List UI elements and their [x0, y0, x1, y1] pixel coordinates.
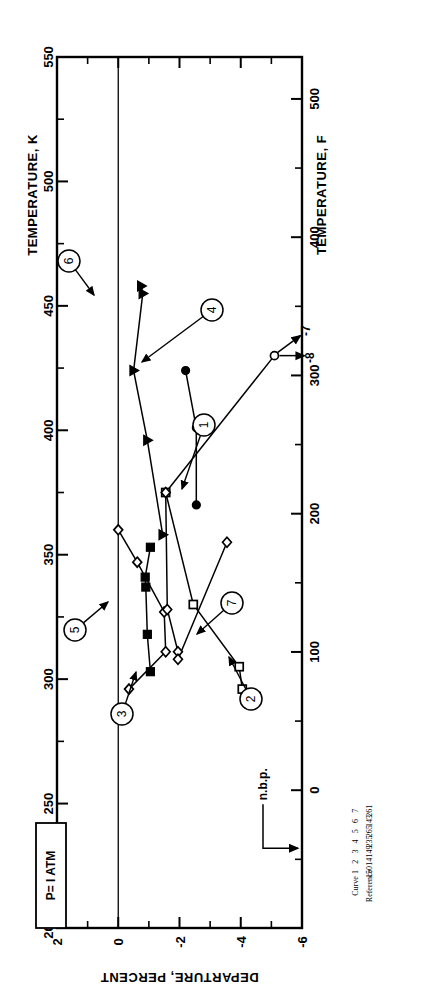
fahrenheit-tick-label: 200	[307, 503, 322, 525]
offscale-arrows: -7-8	[277, 325, 317, 363]
callout-2[interactable]: 2	[229, 657, 262, 710]
series-4	[182, 367, 201, 509]
fahrenheit-tick-label: 100	[307, 641, 322, 663]
nbp-leader	[263, 804, 298, 848]
kelvin-tick-label: 550	[41, 46, 56, 68]
data-point-marker	[174, 654, 183, 664]
data-point-marker	[139, 288, 148, 298]
data-point-marker	[235, 663, 243, 671]
series-line	[186, 371, 197, 505]
legend-curve-cell: 6	[351, 819, 360, 823]
kelvin-tick-label: 450	[41, 295, 56, 317]
fahrenheit-tick-label: 500	[307, 88, 322, 110]
departure-axis-title: DEPARTURE, PERCENT	[100, 970, 258, 985]
data-point-marker	[141, 573, 149, 581]
legend-curve-cell: 1	[351, 870, 360, 874]
departure-vs-temperature-chart: 200250300350400450500550TEMPERATURE, K01…	[0, 0, 448, 1003]
legend-curve-cell: 7	[351, 809, 360, 813]
legend-reference-cell: 150	[365, 866, 374, 878]
series-6	[130, 281, 168, 540]
callout-label: 7	[225, 599, 239, 606]
offscale-label-8: -8	[303, 352, 317, 363]
legend-reference-cell: 261	[365, 805, 374, 817]
pressure-note: P= I ATM	[36, 823, 66, 928]
callout-label: 6	[62, 257, 76, 264]
kelvin-tick-label: 500	[41, 171, 56, 193]
callout-6[interactable]: 6	[58, 250, 94, 295]
nbp-annotation: n.b.p.	[256, 768, 298, 848]
data-point-marker	[146, 543, 154, 551]
nbp-label: n.b.p.	[256, 768, 270, 800]
data-point-marker	[182, 367, 190, 375]
callout-label: 4	[205, 306, 219, 313]
kelvin-axis-title: TEMPERATURE, K	[25, 134, 40, 256]
series-2	[162, 489, 260, 701]
fahrenheit-tick-label: 300	[307, 365, 322, 387]
departure-tick-label: 2	[50, 938, 65, 945]
legend-curve-cell: 5	[351, 829, 360, 833]
callout-label: 1	[197, 421, 211, 428]
data-point-marker	[142, 583, 150, 591]
data-point-marker	[192, 501, 200, 509]
callout-leader	[76, 270, 94, 295]
series-line	[134, 286, 163, 535]
figure-canvas: 200250300350400450500550TEMPERATURE, K01…	[0, 0, 448, 1003]
offscale-label-7: -7	[299, 325, 313, 336]
callout-label: 5	[68, 626, 82, 633]
kelvin-tick-label: 400	[41, 419, 56, 441]
data-point-marker	[146, 668, 154, 676]
callout-4[interactable]: 4	[142, 299, 223, 362]
data-point-marker	[114, 525, 123, 535]
series-1	[162, 352, 279, 497]
fahrenheit-tick-label: 0	[307, 787, 322, 794]
offscale-arrow-7	[277, 336, 300, 353]
callout-5[interactable]: 5	[64, 602, 108, 641]
callout-leader	[142, 317, 203, 362]
departure-tick-label: -2	[173, 936, 188, 948]
series-line	[166, 356, 275, 493]
callout-layer: 1234567	[58, 250, 262, 725]
kelvin-tick-label: 300	[41, 668, 56, 690]
legend-curve-cell: 4	[351, 839, 360, 843]
kelvin-tick-label: 250	[41, 793, 56, 815]
data-point-marker	[223, 537, 232, 547]
legend-header: Curve	[351, 876, 360, 896]
series-layer	[114, 281, 279, 701]
series-line	[145, 547, 150, 672]
series-5	[141, 543, 154, 675]
callout-label: 3	[115, 710, 129, 717]
callout-3[interactable]: 3	[111, 672, 136, 725]
callout-leader	[83, 602, 108, 623]
legend-reference-cell: 14	[365, 858, 374, 866]
data-point-marker	[143, 630, 151, 638]
callout-label: 2	[244, 695, 258, 702]
series-3	[114, 525, 170, 694]
legend-curve-cell: 2	[351, 860, 360, 864]
legend-table: CurveReference11502143149423552656143726…	[351, 805, 374, 902]
data-point-marker	[270, 352, 278, 360]
departure-tick-label: 0	[111, 938, 126, 945]
fahrenheit-axis-title: TEMPERATURE, F	[314, 135, 329, 255]
data-point-marker	[189, 600, 197, 608]
kelvin-tick-label: 350	[41, 544, 56, 566]
departure-tick-label: -6	[295, 936, 310, 948]
callout-leader	[182, 435, 200, 489]
series-line	[118, 530, 165, 689]
legend-curve-cell: 3	[351, 850, 360, 854]
series-line	[166, 493, 227, 660]
series-7	[161, 488, 231, 665]
pressure-note-label: P= I ATM	[44, 851, 58, 901]
data-point-marker	[133, 557, 142, 567]
departure-tick-label: -4	[234, 935, 249, 947]
